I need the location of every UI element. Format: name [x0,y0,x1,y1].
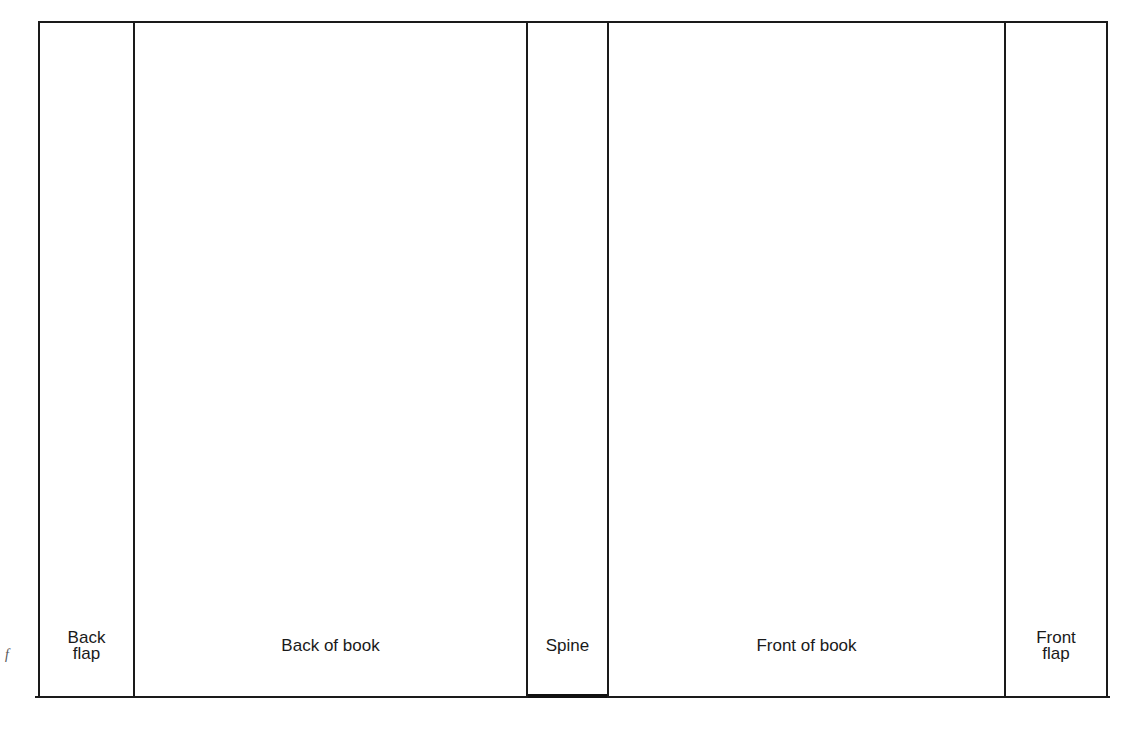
panel-back-flap: Back flap [40,21,133,697]
margin-text-fragment: f [5,647,9,663]
panel-spine: Spine [528,21,607,697]
panel-front-flap: Front flap [1006,21,1106,697]
front-of-book-label: Front of book [756,638,856,654]
panel-front-of-book: Front of book [609,21,1004,697]
panel-back-of-book: Back of book [135,21,526,697]
front-flap-label: Front flap [1036,630,1076,662]
back-flap-label-line2: flap [68,646,106,662]
back-of-book-label: Back of book [281,638,379,654]
front-flap-label-line2: flap [1036,646,1076,662]
spine-label: Spine [546,638,589,654]
back-flap-label: Back flap [68,630,106,662]
